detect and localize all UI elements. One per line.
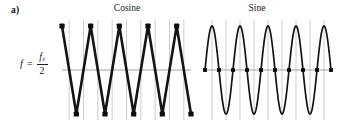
sampling-frequency-formula: f = fs 2 [20, 52, 48, 76]
sine-waveform-svg [205, 20, 331, 120]
panel-label: a) [11, 6, 19, 16]
sample-point [315, 68, 319, 72]
plot-title-cosine: Cosine [85, 3, 169, 13]
sample-point [160, 111, 165, 116]
cosine-waveform-svg [62, 20, 191, 120]
figure-panel: a) f = fs 2 Cosine Sine [0, 0, 340, 130]
plot-title-sine: Sine [215, 3, 299, 13]
sample-point [301, 68, 305, 72]
sample-point [273, 68, 277, 72]
formula-numerator: fs [38, 52, 46, 64]
sample-point [231, 68, 235, 72]
sample-point [217, 68, 221, 72]
sample-point [287, 68, 291, 72]
sample-point [174, 23, 179, 28]
formula-equals: = [27, 59, 33, 69]
sample-point [329, 68, 333, 72]
formula-lhs: f [20, 59, 23, 70]
chart-cosine [62, 20, 191, 120]
sample-point [188, 111, 193, 116]
sample-point [102, 111, 107, 116]
formula-numerator-subscript: s [42, 55, 45, 62]
sample-point [259, 68, 263, 72]
sample-point [131, 111, 136, 116]
sample-point [203, 68, 207, 72]
sample-point [145, 23, 150, 28]
sample-point [88, 23, 93, 28]
formula-denominator: 2 [40, 65, 45, 76]
sample-point [245, 68, 249, 72]
formula-fraction: fs 2 [37, 52, 48, 76]
sample-point [74, 111, 79, 116]
sample-point [117, 23, 122, 28]
sample-point [59, 23, 64, 28]
chart-sine [205, 20, 331, 120]
